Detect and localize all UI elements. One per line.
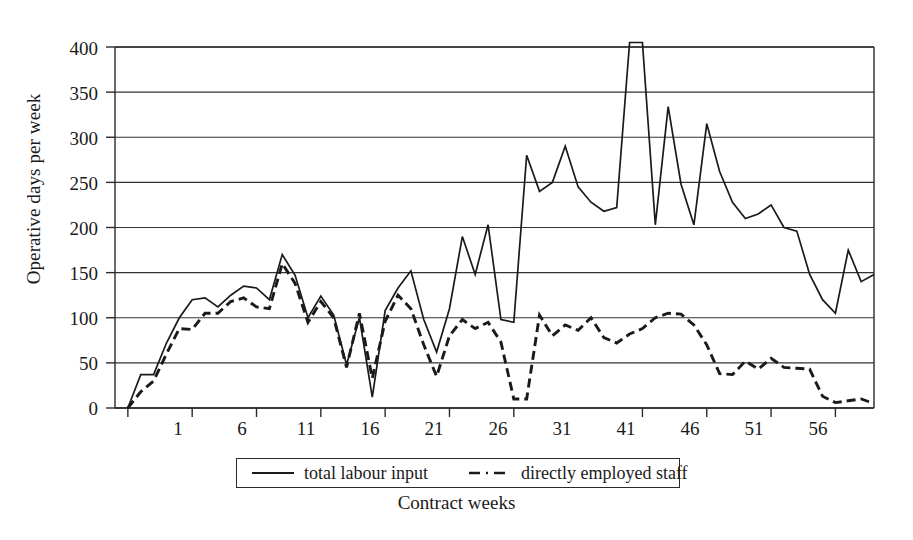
legend-item-directly-employed-staff: directly employed staff xyxy=(468,464,688,482)
gridlines xyxy=(115,47,874,408)
chart-legend: total labour input directly employed sta… xyxy=(236,458,680,488)
series-line-directly-employed-staff xyxy=(128,264,874,408)
series-line-total-labour-input xyxy=(128,42,874,408)
legend-item-total-labour-input: total labour input xyxy=(251,464,428,482)
legend-label-directly-employed-staff: directly employed staff xyxy=(521,464,688,482)
legend-label-total-labour-input: total labour input xyxy=(304,464,428,482)
legend-swatch-dashed-icon xyxy=(468,466,512,480)
data-series xyxy=(128,42,874,408)
axis-ticks xyxy=(106,47,835,417)
legend-swatch-solid-icon xyxy=(251,466,295,480)
x-axis-title: Contract weeks xyxy=(0,492,913,514)
chart-figure: Operative days per week 400 350 300 250 … xyxy=(0,0,913,540)
